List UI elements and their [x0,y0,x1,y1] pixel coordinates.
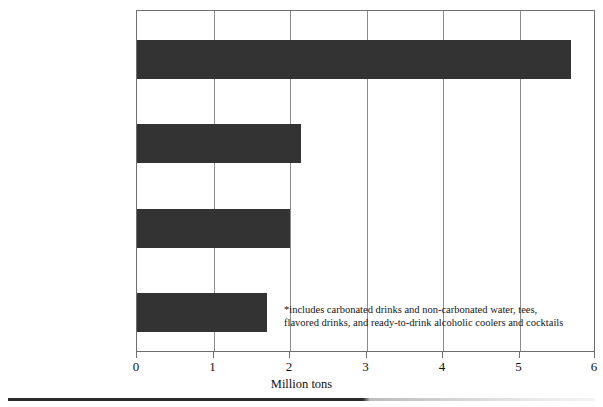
x-tick-mark-3 [366,352,367,358]
x-tick-label-3: 3 [354,359,378,375]
x-tick-mark-6 [594,352,595,358]
x-tick-label-0: 0 [124,359,148,375]
bar-durable-goods [137,124,301,163]
x-tick-mark-0 [136,352,137,358]
x-tick-mark-2 [289,352,290,358]
bar-other-bottles-jars [137,209,290,248]
bar-beer-soft-drink-bottles [137,40,571,79]
bar-row [137,293,267,332]
x-axis-title: Million tons [0,377,603,392]
footnote-line-2: flavored drinks, and ready-to-drink alco… [284,317,584,330]
bar-chart-figure: *includes carbonated drinks and non-carb… [0,0,603,407]
footnote-line-1: *includes carbonated drinks and non-carb… [284,304,584,317]
plot-area: *includes carbonated drinks and non-carb… [136,10,595,352]
bar-row [137,209,290,248]
x-tick-label-4: 4 [430,359,454,375]
x-tick-mark-4 [442,352,443,358]
bar-wine-liquor-bottles [137,293,267,332]
x-tick-mark-1 [213,352,214,358]
x-tick-label-1: 1 [201,359,225,375]
x-tick-label-5: 5 [507,359,531,375]
x-tick-label-2: 2 [277,359,301,375]
bottom-divider [8,398,595,401]
x-tick-mark-5 [519,352,520,358]
bar-row [137,40,571,79]
x-tick-label-6: 6 [582,359,603,375]
bar-row [137,124,301,163]
footnote-annotation: *includes carbonated drinks and non-carb… [284,304,584,329]
